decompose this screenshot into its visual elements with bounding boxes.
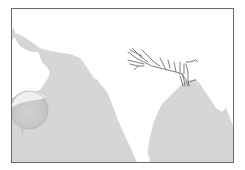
map-canvas	[0, 0, 245, 170]
ganges-river-system	[128, 48, 198, 86]
bay-of-bengal	[147, 80, 233, 162]
